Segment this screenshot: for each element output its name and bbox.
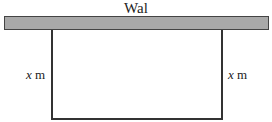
left-side-label: x m (26, 68, 45, 82)
right-side-label: x m (228, 68, 247, 82)
rect-right-side (221, 30, 223, 119)
wall (4, 16, 269, 30)
rect-bottom-side (51, 118, 223, 120)
rect-left-side (51, 30, 53, 119)
wall-label: Wal (0, 0, 272, 16)
